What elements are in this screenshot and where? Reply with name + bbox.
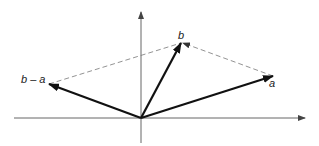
label-b-minus-a: b – a bbox=[21, 74, 45, 85]
dashed-line-a-to-b bbox=[183, 43, 273, 76]
label-b: b bbox=[178, 30, 184, 41]
vector-b-minus-a bbox=[49, 84, 141, 118]
label-a: a bbox=[269, 78, 275, 89]
diagram-svg bbox=[0, 0, 319, 146]
vector-diagram: b a b – a bbox=[0, 0, 319, 146]
